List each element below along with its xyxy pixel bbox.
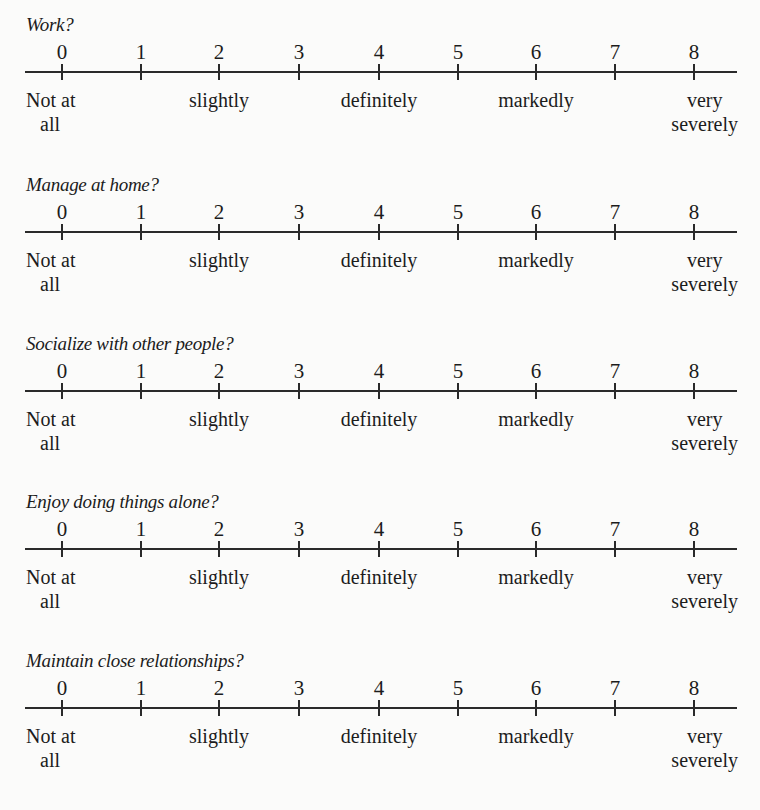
scale-tick-3[interactable] [298,541,300,557]
scale-tick-8[interactable] [693,700,695,716]
question-label: Work? [26,14,73,36]
scale-number-7: 7 [600,40,630,65]
scale-tick-6[interactable] [535,700,537,716]
scale-number-1: 1 [126,517,156,542]
scale-number-5: 5 [443,359,473,384]
anchor-definitely: definitely [341,88,418,112]
scale-number-2: 2 [204,200,234,225]
scale-tick-3[interactable] [298,224,300,240]
scale-tick-1[interactable] [140,541,142,557]
scale-tick-6[interactable] [535,383,537,399]
scale-tick-4[interactable] [378,64,380,80]
question-label: Manage at home? [26,174,159,196]
scale-number-4: 4 [364,517,394,542]
scale-number-5: 5 [443,676,473,701]
scale-tick-3[interactable] [298,383,300,399]
scale-number-7: 7 [600,200,630,225]
question-label: Enjoy doing things alone? [26,491,219,513]
scale-tick-5[interactable] [457,383,459,399]
scale-number-5: 5 [443,200,473,225]
scale-tick-6[interactable] [535,224,537,240]
scale-tick-2[interactable] [218,224,220,240]
scale-tick-5[interactable] [457,541,459,557]
scale-tick-4[interactable] [378,541,380,557]
scale-number-7: 7 [600,359,630,384]
scale-tick-0[interactable] [61,541,63,557]
scale-number-8: 8 [679,40,709,65]
scale-number-0: 0 [47,676,77,701]
anchor-very-severely: veryseverely [671,248,738,296]
anchor-markedly: markedly [498,407,574,431]
scale-tick-8[interactable] [693,64,695,80]
anchor-not-at-all: Not atall [26,565,75,613]
scale-tick-5[interactable] [457,64,459,80]
scale-tick-4[interactable] [378,383,380,399]
scale-tick-0[interactable] [61,700,63,716]
anchor-not-at-all: Not atall [26,248,75,296]
scale-tick-7[interactable] [614,541,616,557]
scale-tick-1[interactable] [140,383,142,399]
scale-line [25,548,737,550]
question-label: Socialize with other people? [26,333,233,355]
scale-tick-1[interactable] [140,700,142,716]
scale-tick-4[interactable] [378,700,380,716]
scale-number-6: 6 [521,676,551,701]
scale-number-8: 8 [679,676,709,701]
anchor-markedly: markedly [498,724,574,748]
scale-tick-5[interactable] [457,224,459,240]
scale-number-4: 4 [364,359,394,384]
scale-tick-3[interactable] [298,64,300,80]
scale-tick-2[interactable] [218,383,220,399]
scale-number-8: 8 [679,359,709,384]
scale-tick-4[interactable] [378,224,380,240]
scale-number-0: 0 [47,200,77,225]
scale-tick-7[interactable] [614,383,616,399]
anchor-definitely: definitely [341,407,418,431]
rating-scale-work: Work?012345678Not atallslightlydefinitel… [0,0,760,158]
scale-number-1: 1 [126,676,156,701]
scale-number-4: 4 [364,40,394,65]
scale-tick-2[interactable] [218,700,220,716]
scale-tick-8[interactable] [693,541,695,557]
scale-number-8: 8 [679,517,709,542]
scale-line [25,707,737,709]
scale-number-2: 2 [204,517,234,542]
anchor-not-at-all: Not atall [26,724,75,772]
scale-tick-7[interactable] [614,224,616,240]
anchor-very-severely: veryseverely [671,407,738,455]
rating-scale-close-relationships: Maintain close relationships?012345678No… [0,636,760,794]
scale-tick-2[interactable] [218,541,220,557]
scale-number-2: 2 [204,359,234,384]
scale-line [25,390,737,392]
scale-tick-8[interactable] [693,224,695,240]
anchor-slightly: slightly [189,565,249,589]
anchor-markedly: markedly [498,248,574,272]
scale-tick-3[interactable] [298,700,300,716]
scale-tick-1[interactable] [140,224,142,240]
anchor-slightly: slightly [189,88,249,112]
anchor-very-severely: veryseverely [671,565,738,613]
rating-scale-enjoy-alone: Enjoy doing things alone?012345678Not at… [0,477,760,635]
rating-scale-socialize: Socialize with other people?012345678Not… [0,319,760,477]
scale-tick-0[interactable] [61,64,63,80]
scale-number-0: 0 [47,359,77,384]
scale-tick-7[interactable] [614,64,616,80]
scale-tick-5[interactable] [457,700,459,716]
scale-tick-6[interactable] [535,541,537,557]
anchor-markedly: markedly [498,565,574,589]
scale-tick-6[interactable] [535,64,537,80]
scale-number-1: 1 [126,359,156,384]
scale-tick-0[interactable] [61,383,63,399]
scale-tick-7[interactable] [614,700,616,716]
scale-tick-8[interactable] [693,383,695,399]
scale-line [25,231,737,233]
anchor-definitely: definitely [341,248,418,272]
anchor-slightly: slightly [189,248,249,272]
scale-tick-2[interactable] [218,64,220,80]
scale-number-6: 6 [521,200,551,225]
scale-tick-1[interactable] [140,64,142,80]
anchor-definitely: definitely [341,724,418,748]
scale-number-6: 6 [521,359,551,384]
scale-tick-0[interactable] [61,224,63,240]
scale-number-6: 6 [521,517,551,542]
